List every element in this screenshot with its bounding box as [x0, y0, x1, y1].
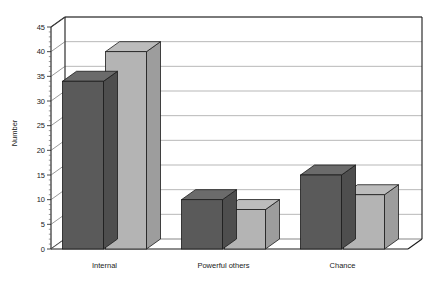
y-tick-label: 30 [37, 97, 45, 106]
bar-front-face [63, 81, 104, 249]
y-tick-label: 40 [37, 47, 45, 56]
bar-chart-figure: 051015202530354045 InternalPowerful othe… [0, 0, 439, 284]
y-tick-label: 45 [37, 23, 45, 32]
y-tick-label: 5 [41, 220, 45, 229]
bar-chance-s1 [301, 165, 356, 249]
y-tick-label: 0 [41, 245, 45, 254]
y-axis-title: Number [10, 119, 19, 146]
bar-powerful-others-s1 [182, 190, 237, 249]
y-tick-label: 20 [37, 146, 45, 155]
y-tick-label: 15 [37, 171, 45, 180]
y-tick-label: 25 [37, 121, 45, 130]
category-labels-group: InternalPowerful othersChance [92, 261, 355, 270]
chart-canvas: 051015202530354045 InternalPowerful othe… [0, 0, 439, 284]
bar-front-face [182, 200, 223, 249]
y-tick-label: 10 [37, 195, 45, 204]
bar-internal-s1 [63, 71, 118, 249]
category-label: Chance [330, 261, 356, 270]
y-tick-label: 35 [37, 72, 45, 81]
category-label: Internal [92, 261, 117, 270]
category-label: Powerful others [197, 261, 249, 270]
bar-front-face [301, 175, 342, 249]
bar-side-face [385, 185, 399, 249]
bar-side-face [104, 71, 118, 249]
bar-side-face [342, 165, 356, 249]
bar-side-face [147, 42, 161, 249]
